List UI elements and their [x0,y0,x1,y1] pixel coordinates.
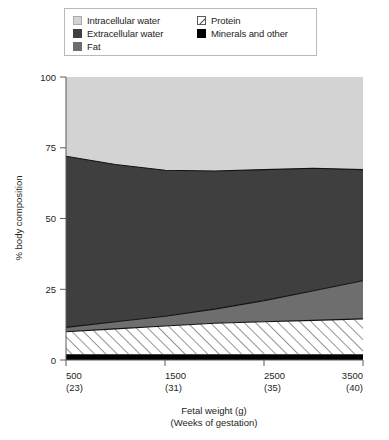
x-tick-label-weeks-1500: (31) [165,382,182,393]
y-axis-title: % body composition [13,175,24,260]
y-axis-ticks: 0 25 50 75 100 [40,72,66,366]
x-axis-title-line1: Fetal weight (g) [181,405,246,416]
band-intracellular-water [66,77,363,171]
y-tick-label-25: 25 [45,284,56,295]
x-tick-label-weight-500: 500 [66,370,82,381]
x-tick-label-weeks-500: (23) [66,382,83,393]
y-tick-label-50: 50 [45,213,56,224]
x-tick-label-weight-3500: 3500 [342,370,363,381]
x-axis-title-line2: (Weeks of gestation) [171,417,258,428]
y-tick-label-100: 100 [40,72,56,83]
band-minerals-and-other [66,354,363,360]
plot-bands [66,77,363,360]
x-tick-label-weeks-3500: (40) [346,382,363,393]
x-tick-label-weight-2500: 2500 [264,370,285,381]
y-tick-label-75: 75 [45,142,56,153]
x-tick-label-weeks-2500: (35) [264,382,281,393]
y-tick-label-0: 0 [51,355,56,366]
x-tick-label-weight-1500: 1500 [165,370,186,381]
stacked-area-chart: 0 25 50 75 100 % body composition 500 (2… [0,0,389,440]
x-axis-ticks: 500 (23) 1500 (31) 2500 (35) 3500 (40) [66,360,363,393]
